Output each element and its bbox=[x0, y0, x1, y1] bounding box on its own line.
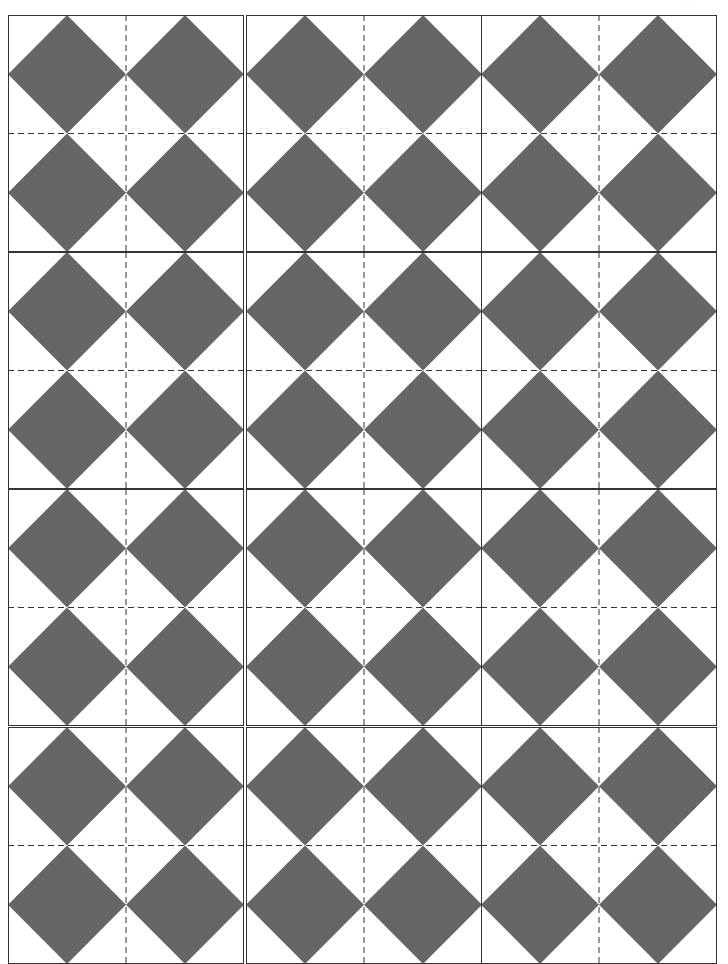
pattern-tile bbox=[246, 252, 482, 489]
pattern-tile bbox=[481, 15, 717, 252]
x-cross-motif bbox=[481, 489, 717, 726]
x-cross-motif bbox=[246, 727, 482, 964]
pattern-tile bbox=[481, 252, 717, 489]
pattern-tile bbox=[8, 252, 244, 489]
x-cross-motif bbox=[481, 727, 717, 964]
pattern-tile bbox=[481, 489, 717, 726]
x-cross-motif bbox=[246, 252, 482, 489]
pattern-tile bbox=[8, 489, 244, 726]
pattern-tile bbox=[8, 15, 244, 252]
pattern-tile bbox=[481, 727, 717, 964]
pattern-tile bbox=[246, 727, 482, 964]
quilt-pattern-sheet bbox=[8, 15, 717, 963]
pattern-tile bbox=[246, 15, 482, 252]
x-cross-motif bbox=[8, 252, 244, 489]
page-header-mark: · · · bbox=[680, 0, 689, 6]
x-cross-motif bbox=[8, 727, 244, 964]
x-cross-motif bbox=[481, 15, 717, 252]
pattern-tile bbox=[246, 489, 482, 726]
x-cross-motif bbox=[246, 489, 482, 726]
pattern-tile bbox=[8, 727, 244, 964]
x-cross-motif bbox=[8, 15, 244, 252]
x-cross-motif bbox=[481, 252, 717, 489]
x-cross-motif bbox=[8, 489, 244, 726]
x-cross-motif bbox=[246, 15, 482, 252]
